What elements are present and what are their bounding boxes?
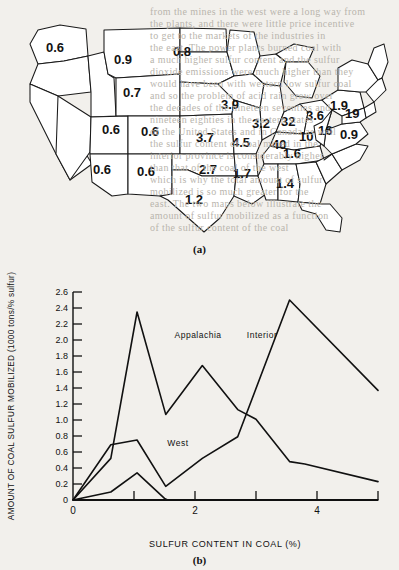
state-value-nebraska: 3.7 (196, 130, 214, 145)
y-tick-label: 1.0 (55, 415, 68, 425)
state-value-new-mexico: 0.6 (137, 164, 155, 179)
state-value-north-dakota: 0.8 (173, 44, 191, 59)
y-tick-label: 1.4 (55, 383, 68, 393)
series-label-west: West (167, 438, 188, 448)
chart-panel: 00.20.40.60.81.01.21.41.61.82.02.22.42.6… (0, 262, 399, 570)
state-value-iowa: 4.5 (232, 135, 250, 150)
y-tick-label: 1.2 (55, 399, 68, 409)
panel-label-b: (b) (0, 554, 399, 566)
scanned-page: 0.6 0.9 0.8 0.7 0.6 0.6 0.6 0.6 3.9 3.7 … (0, 0, 399, 570)
y-tick-label: 1.8 (55, 351, 68, 361)
y-axis-title: AMOUNT OF COAL SULFUR MOBILIZED (1000 to… (7, 272, 16, 520)
data-series (73, 300, 378, 500)
y-tick-label: 2.2 (55, 319, 68, 329)
series-line-appalachia (73, 312, 378, 500)
y-tick-label: 2.6 (55, 287, 68, 297)
y-tick-label: 0.8 (55, 431, 68, 441)
state-value-illinois: 3.2 (252, 116, 270, 131)
x-tick-label: 2 (192, 505, 198, 516)
state-value-idaho: 0.7 (123, 85, 141, 100)
y-axis-ticks (73, 292, 82, 500)
state-value-kansas: 2.7 (199, 162, 217, 177)
state-value-washington: 0.6 (46, 40, 64, 55)
x-axis-ticks (134, 491, 378, 500)
state-value-montana: 0.9 (114, 52, 132, 67)
series-label-appalachia: Appalachia (175, 330, 222, 340)
y-tick-label: 0.6 (55, 447, 68, 457)
state-value-alabama: 1.4 (276, 176, 295, 191)
panel-label-a: (a) (0, 243, 399, 255)
state-value-new-york: 19 (345, 106, 359, 121)
state-value-utah: 0.6 (102, 122, 120, 137)
state-value-colorado: 0.6 (141, 124, 159, 139)
y-tick-label: 0.4 (55, 463, 68, 473)
us-map-figure: 0.6 0.9 0.8 0.7 0.6 0.6 0.6 0.6 3.9 3.7 … (8, 4, 391, 239)
map-panel: 0.6 0.9 0.8 0.7 0.6 0.6 0.6 0.6 3.9 3.7 … (0, 0, 399, 262)
y-tick-label: 2.0 (55, 335, 68, 345)
state-value-indiana: 32 (281, 114, 295, 129)
state-value-virginia: 16 (318, 123, 332, 138)
state-outlines (30, 25, 388, 232)
state-value-south-dakota: 3.9 (221, 97, 239, 112)
x-tick-label: 0 (70, 505, 76, 516)
y-tick-label: 1.6 (55, 367, 68, 377)
state-value-west-virginia: 10 (299, 129, 313, 144)
line-chart-figure: 00.20.40.60.81.01.21.41.61.82.02.22.42.6… (0, 262, 399, 570)
state-value-north-carolina: 0.9 (340, 127, 358, 142)
series-line-west (73, 473, 378, 500)
state-value-texas: 1.2 (185, 192, 203, 207)
y-tick-label: 0.2 (55, 479, 68, 489)
y-axis-tick-labels: 00.20.40.60.81.01.21.41.61.82.02.22.42.6 (55, 287, 68, 505)
state-value-missouri: 1.7 (233, 166, 251, 181)
x-tick-label: 4 (314, 505, 320, 516)
state-value-ohio: 3.6 (306, 108, 324, 123)
x-axis-title: SULFUR CONTENT IN COAL (%) (149, 539, 301, 549)
y-tick-label: 2.4 (55, 303, 68, 313)
y-tick-label: 0 (63, 495, 68, 505)
state-value-arizona: 0.6 (93, 162, 111, 177)
state-value-tennessee: 1.6 (283, 146, 301, 161)
series-label-interior: Interior (247, 330, 277, 340)
x-axis-tick-labels: 024 (70, 505, 320, 516)
